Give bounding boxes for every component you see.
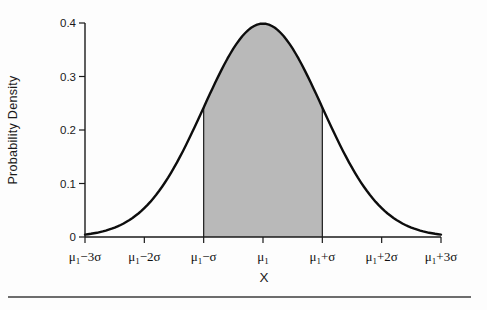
x-tick-label: μ1+3σ [425, 249, 457, 266]
y-tick-label: 0 [70, 231, 76, 243]
normal-distribution-chart: 00.10.20.30.4 μ1−3σμ1−2σμ1−σμ1μ1+σμ1+2σμ… [0, 0, 487, 310]
y-axis-ticks: 00.10.20.30.4 [60, 17, 85, 243]
figure-page: 00.10.20.30.4 μ1−3σμ1−2σμ1−σμ1μ1+σμ1+2σμ… [0, 0, 487, 310]
x-axis-title: X [259, 270, 268, 285]
x-tick-label: μ1−2σ [128, 249, 160, 266]
y-tick-label: 0.2 [60, 124, 76, 136]
y-tick-label: 0.1 [60, 178, 76, 190]
y-tick-label: 0.4 [60, 17, 77, 29]
x-tick-label: μ1 [257, 249, 268, 266]
y-tick-label: 0.3 [60, 71, 76, 83]
y-axis-title: Probability Density [6, 75, 20, 185]
shaded-one-sigma-region [204, 24, 323, 237]
x-tick-label: μ1+σ [309, 249, 335, 266]
x-tick-label: μ1+2σ [366, 249, 398, 266]
x-axis-ticks: μ1−3σμ1−2σμ1−σμ1μ1+σμ1+2σμ1+3σ [69, 237, 457, 266]
x-tick-label: μ1−3σ [69, 249, 101, 266]
x-tick-label: μ1−σ [191, 249, 217, 266]
